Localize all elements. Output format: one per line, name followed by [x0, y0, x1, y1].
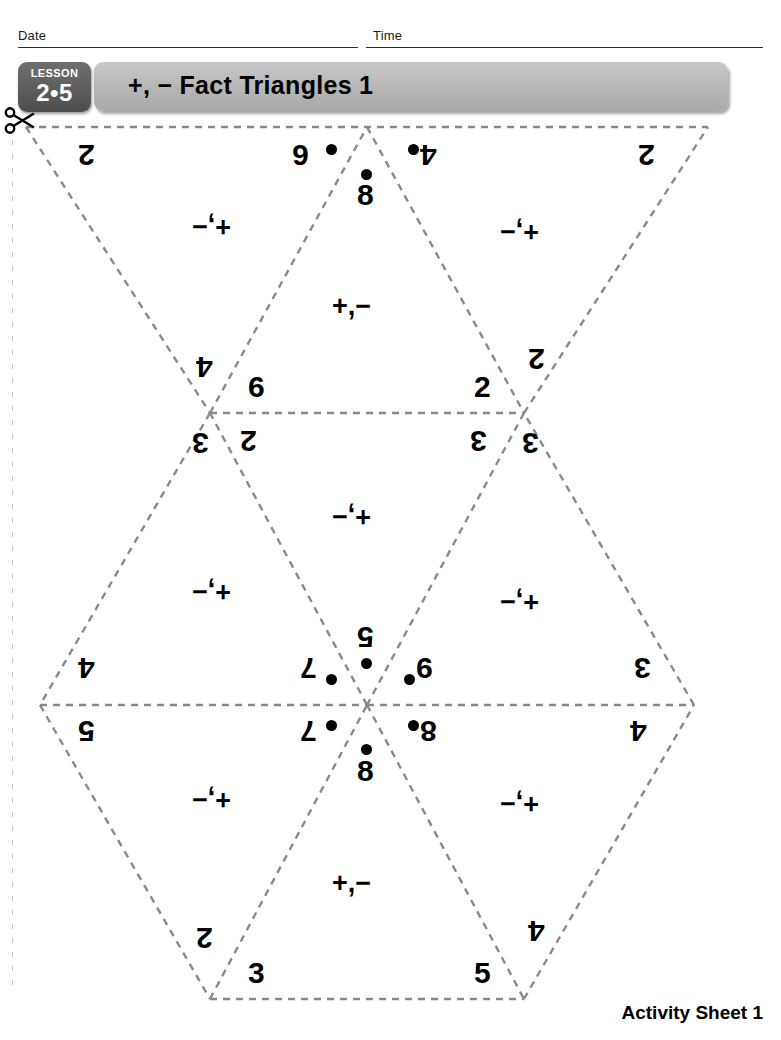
- triangle-corner-number: 4: [420, 140, 437, 170]
- triangle-corner-number: 7: [300, 716, 317, 746]
- cut-lines: [0, 118, 781, 1008]
- date-rule: [18, 47, 358, 48]
- fact-triangles-grid: 2 6 4 +,− 8 6 2 +,− 4 2 2 +,− 3 4 7 +,− …: [0, 118, 781, 1008]
- triangle-operation: +,−: [192, 786, 231, 813]
- triangle-corner-number: 9: [416, 653, 433, 683]
- triangle-corner-number: 5: [474, 958, 491, 988]
- fact-dot: [361, 658, 372, 669]
- triangle-corner-number: 2: [638, 140, 655, 170]
- page-title: +, − Fact Triangles 1: [128, 71, 373, 100]
- fact-dot: [408, 720, 419, 731]
- fact-dot: [326, 144, 337, 155]
- triangle-corner-number: 8: [420, 716, 437, 746]
- triangle-apex-number: 8: [357, 756, 374, 786]
- time-label: Time: [373, 28, 402, 43]
- activity-sheet-label: Activity Sheet 1: [622, 1002, 764, 1024]
- triangle-corner-number: 6: [248, 372, 265, 402]
- lesson-word: LESSON: [18, 67, 91, 79]
- page-header: Date Time: [18, 28, 763, 48]
- lesson-number: 2•5: [18, 79, 91, 107]
- triangle-operation: +,−: [332, 870, 371, 897]
- triangle-corner-number: 2: [78, 140, 95, 170]
- triangle-corner-number: 4: [630, 716, 647, 746]
- title-bar-background: +, − Fact Triangles 1: [94, 62, 728, 111]
- triangle-apex-number: 8: [357, 180, 374, 210]
- time-rule: [366, 47, 763, 48]
- triangle-corner-number: 3: [634, 653, 651, 683]
- scissors-icon: [4, 106, 38, 136]
- fact-dot: [326, 674, 337, 685]
- title-banner: +, − Fact Triangles 1 LESSON 2•5: [18, 62, 728, 114]
- triangle-operation: +,−: [332, 293, 371, 320]
- fact-dot: [404, 674, 415, 685]
- triangle-corner-number: 5: [78, 716, 95, 746]
- lesson-badge: LESSON 2•5: [18, 62, 91, 112]
- triangle-corner-number: 3: [248, 958, 265, 988]
- triangle-corner-number: 4: [78, 653, 95, 683]
- triangle-corner-number: 4: [196, 352, 213, 382]
- triangle-operation: +,−: [192, 213, 231, 240]
- triangle-operation: +,−: [500, 790, 539, 817]
- triangle-corner-number: 2: [474, 372, 491, 402]
- triangle-operation: +,−: [500, 218, 539, 245]
- triangle-corner-number: 7: [300, 653, 317, 683]
- triangle-corner-number: 2: [528, 344, 545, 374]
- triangle-apex-number: 3: [522, 428, 539, 458]
- date-label: Date: [18, 28, 46, 43]
- triangle-corner-number: 2: [240, 426, 257, 456]
- triangle-corner-number: 3: [470, 426, 487, 456]
- triangle-corner-number: 2: [196, 923, 213, 953]
- triangle-corner-number: 4: [528, 916, 545, 946]
- fact-dot: [326, 720, 337, 731]
- triangle-apex-number: 3: [192, 428, 209, 458]
- triangle-apex-number: 5: [357, 622, 374, 652]
- fact-dot: [408, 144, 419, 155]
- triangle-operation: +,−: [332, 503, 371, 530]
- triangle-operation: +,−: [500, 588, 539, 615]
- triangle-corner-number: 6: [292, 140, 309, 170]
- triangle-operation: +,−: [192, 578, 231, 605]
